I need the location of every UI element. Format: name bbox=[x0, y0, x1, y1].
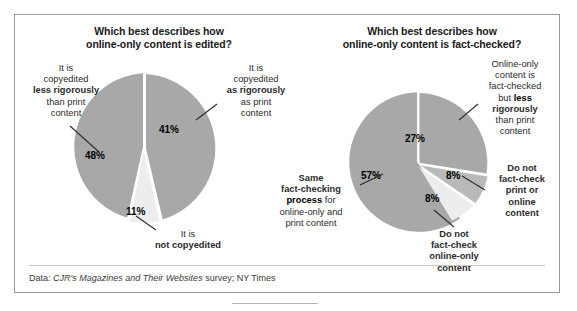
callout-editing-as-rigorously-line2: copyedited bbox=[215, 74, 297, 85]
leader-line-factchecking-no-online-only bbox=[433, 209, 457, 229]
source-divider bbox=[29, 265, 545, 266]
callout-editing-as-rigorously: It is copyedited as rigorously as print … bbox=[215, 63, 297, 119]
callout-factchecking-no-online-only-line2: fact-check bbox=[409, 240, 499, 251]
figure-frame: Which best describes how online-only con… bbox=[14, 14, 560, 293]
chart-title-editing: Which best describes how online-only con… bbox=[15, 25, 303, 50]
callout-factchecking-less-rigorously-but: but bbox=[498, 93, 514, 103]
callout-editing-less-rigorously: It is copyedited less rigorously than pr… bbox=[27, 63, 105, 119]
callout-factchecking-same-process: Same fact-checking process for online-on… bbox=[265, 173, 357, 229]
leader-line-editing-not-copyedited bbox=[135, 215, 159, 233]
callout-factchecking-no-online-only-line1: Do not bbox=[409, 229, 499, 240]
chart-title-factchecking-line1: Which best describes how bbox=[303, 25, 561, 38]
chart-title-factchecking-line2: online-only content is fact-checked? bbox=[303, 38, 561, 51]
callout-editing-as-rigorously-line4: as print bbox=[215, 97, 297, 108]
callout-editing-less-rigorously-line1: It is bbox=[27, 63, 105, 74]
source-note: Data: CJR's Magazines and Their Websites… bbox=[29, 273, 276, 283]
leader-line-editing-less-rigorously bbox=[69, 125, 103, 155]
callout-factchecking-no-print-or-online-line1: Do not bbox=[485, 163, 559, 174]
callout-factchecking-no-print-or-online-line5: content bbox=[485, 208, 559, 219]
callout-factchecking-same-process-line4: online-only and bbox=[265, 207, 357, 218]
chart-panel-editing: Which best describes how online-only con… bbox=[15, 15, 303, 292]
callout-editing-as-rigorously-line5: content bbox=[215, 108, 297, 119]
callout-factchecking-same-process-for: for bbox=[322, 195, 335, 205]
callout-factchecking-less-rigorously-line2: content is bbox=[475, 70, 555, 81]
callout-factchecking-same-process-line2: fact-checking bbox=[265, 184, 357, 195]
callout-editing-less-rigorously-line2: copyedited bbox=[27, 74, 105, 85]
callout-editing-less-rigorously-line5: content bbox=[27, 108, 105, 119]
callout-factchecking-same-process-line5: print content bbox=[265, 218, 357, 229]
callout-editing-less-rigorously-line4: than print bbox=[27, 97, 105, 108]
callout-factchecking-same-process-process: process bbox=[286, 195, 322, 205]
callout-factchecking-no-print-or-online-line4: online bbox=[485, 197, 559, 208]
chart-title-editing-line2: online-only content is edited? bbox=[15, 38, 303, 51]
pie-slice-editing-41 bbox=[146, 74, 215, 220]
callout-factchecking-less-rigorously-line7: content bbox=[475, 126, 555, 137]
callout-editing-as-rigorously-line3: as rigorously bbox=[215, 85, 297, 96]
callout-factchecking-no-online-only: Do not fact-check online-only content bbox=[409, 229, 499, 274]
pie-value-factchecking-27: 27% bbox=[405, 133, 425, 144]
callout-factchecking-less-rigorously-line5: rigorously bbox=[475, 104, 555, 115]
callout-editing-not-copyedited-line2: not copyedited bbox=[133, 240, 243, 251]
callout-factchecking-same-process-line3: process for bbox=[265, 195, 357, 206]
callout-factchecking-same-process-line1: Same bbox=[265, 173, 357, 184]
callout-factchecking-less-rigorously-line6: than print bbox=[475, 115, 555, 126]
callout-editing-less-rigorously-line3: less rigorously bbox=[27, 85, 105, 96]
callout-factchecking-less-rigorously-less: less bbox=[514, 93, 532, 103]
pie-value-editing-41: 41% bbox=[159, 124, 179, 135]
chart-title-factchecking: Which best describes how online-only con… bbox=[303, 25, 561, 50]
callout-factchecking-less-rigorously: Online-only content is fact-checked but … bbox=[475, 59, 555, 137]
callout-factchecking-no-print-or-online-line3: print or bbox=[485, 185, 559, 196]
source-note-prefix: Data: bbox=[29, 273, 53, 283]
source-note-suffix: survey; NY Times bbox=[203, 273, 276, 283]
leader-line-factchecking-no-print-or-online bbox=[461, 175, 487, 193]
callout-factchecking-no-print-or-online-line2: fact-check bbox=[485, 174, 559, 185]
callout-editing-as-rigorously-line1: It is bbox=[215, 63, 297, 74]
chart-title-editing-line1: Which best describes how bbox=[15, 25, 303, 38]
callout-factchecking-less-rigorously-line4: but less bbox=[475, 93, 555, 104]
callout-factchecking-no-print-or-online: Do not fact-check print or online conten… bbox=[485, 163, 559, 219]
pie-value-factchecking-8a: 8% bbox=[446, 170, 460, 181]
leader-line-factchecking-same-process bbox=[359, 173, 385, 187]
callout-factchecking-no-online-only-line3: online-only bbox=[409, 251, 499, 262]
callout-factchecking-less-rigorously-line1: Online-only bbox=[475, 59, 555, 70]
scan-artifact-line bbox=[232, 303, 318, 304]
chart-panel-factchecking: Which best describes how online-only con… bbox=[303, 15, 561, 292]
leader-line-editing-as-rigorously bbox=[195, 103, 219, 123]
callout-factchecking-less-rigorously-line3: fact-checked bbox=[475, 81, 555, 92]
leader-line-factchecking-less-rigorously bbox=[458, 103, 480, 123]
source-note-title: CJR's Magazines and Their Websites bbox=[53, 273, 203, 283]
pie-value-factchecking-8b: 8% bbox=[425, 193, 439, 204]
